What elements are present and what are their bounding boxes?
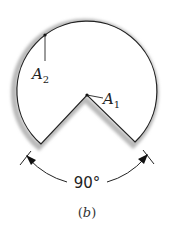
- angle-arc-left: [29, 159, 67, 182]
- arrowhead-left-icon: [26, 155, 36, 165]
- diagram-canvas: A2 A1 90° (b): [0, 0, 170, 235]
- angle-arc-right: [107, 158, 145, 182]
- arrowhead-right-icon: [138, 154, 148, 164]
- angle-label: 90°: [74, 174, 101, 192]
- figure-b: A2 A1 90° (b): [0, 0, 170, 235]
- figure-caption: (b): [78, 205, 96, 220]
